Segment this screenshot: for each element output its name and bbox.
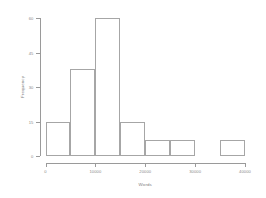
histogram-bar (70, 69, 95, 156)
x-tick-mark (245, 163, 246, 167)
histogram-chart: 015304560 010000200003000040000 Words Fr… (0, 0, 266, 198)
x-tick-label: 10000 (89, 169, 101, 174)
y-tick-label: 45 (19, 50, 34, 55)
x-tick-mark (95, 163, 96, 167)
x-tick-label: 0 (44, 169, 46, 174)
y-tick-mark (36, 53, 40, 54)
histogram-bar (46, 122, 71, 157)
histogram-bar (95, 18, 120, 156)
y-tick-label: 15 (19, 119, 34, 124)
histogram-bar (120, 122, 145, 157)
histogram-bar (145, 140, 170, 156)
y-tick-label: 60 (19, 16, 34, 21)
y-tick-mark (36, 87, 40, 88)
y-tick-mark (36, 122, 40, 123)
x-tick-label: 30000 (189, 169, 201, 174)
x-tick-mark (145, 163, 146, 167)
y-tick-label: 0 (19, 154, 34, 159)
x-tick-label: 40000 (239, 169, 251, 174)
x-tick-label: 20000 (139, 169, 151, 174)
y-tick-mark (36, 18, 40, 19)
y-tick-mark (36, 156, 40, 157)
x-tick-mark (46, 163, 47, 167)
y-axis-title: Frequency (20, 76, 25, 98)
x-tick-mark (195, 163, 196, 167)
y-axis-line (40, 18, 41, 156)
x-axis-title: Words (139, 182, 152, 187)
histogram-bar (170, 140, 195, 156)
histogram-bar (220, 140, 245, 156)
